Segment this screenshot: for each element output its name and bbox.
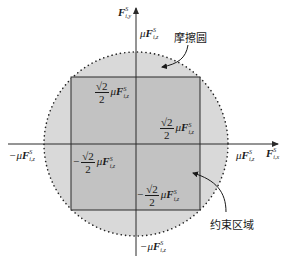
- square-top-label: √22μFSi,z: [93, 80, 129, 105]
- square-left-label: −√22μFSi,z: [73, 150, 115, 175]
- left-intercept-label: −μFSi,z: [9, 149, 35, 163]
- constraint-region-label: 约束区域: [210, 216, 254, 232]
- top-intercept-label: μFSi,z: [140, 27, 158, 41]
- square-right-label: √22μFSi,z: [158, 116, 194, 141]
- x-axis-label: FSi,x: [266, 147, 279, 161]
- friction-circle-label: 摩擦圆: [174, 29, 207, 45]
- square-bottom-label: −√22μFSi,z: [137, 183, 179, 208]
- right-intercept-label: μFSi,z: [236, 149, 254, 163]
- y-axis-label: FSi,y: [118, 6, 131, 20]
- bottom-intercept-label: −μFSi,z: [140, 240, 166, 254]
